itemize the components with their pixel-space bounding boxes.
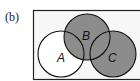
venn-diagram: A B C [0,0,140,81]
set-c-label: C [108,51,117,65]
set-b-label: B [82,29,90,43]
set-a-label: A [56,51,65,65]
